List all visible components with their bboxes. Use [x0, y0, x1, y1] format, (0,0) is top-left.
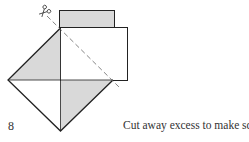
paper-rectangle	[61, 28, 128, 81]
step-number: 8	[8, 119, 14, 134]
excess-strip	[60, 11, 115, 28]
scissors-icon	[37, 5, 51, 19]
step-caption: Cut away excess to make square.	[123, 119, 249, 131]
